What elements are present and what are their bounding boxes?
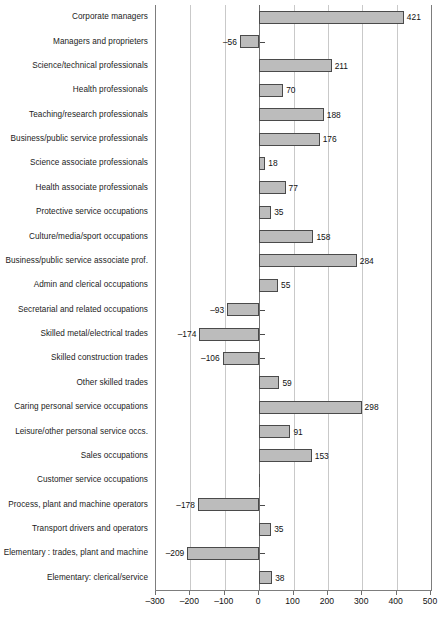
category-label: Science associate professionals (0, 158, 148, 168)
category-label: Secretarial and related occupations (0, 305, 148, 315)
bar-value-label: 38 (275, 573, 284, 583)
bar (259, 401, 361, 414)
bar-value-label: 35 (274, 207, 283, 217)
category-label: Teaching/research professionals (0, 110, 148, 120)
category-label: Managers and proprieters (0, 37, 148, 47)
x-tick-mark (189, 591, 190, 595)
bar-value-label: 18 (268, 158, 277, 168)
x-tick-mark (155, 591, 156, 595)
category-label: Transport drivers and operators (0, 524, 148, 534)
bar (259, 84, 283, 97)
gridline (328, 5, 329, 590)
bar (259, 133, 320, 146)
x-tick-mark (361, 591, 362, 595)
category-label: Process, plant and machine operators (0, 500, 148, 510)
bar (259, 474, 260, 487)
bar (259, 230, 313, 243)
bar (223, 352, 259, 365)
category-label: Skilled metal/electrical trades (0, 329, 148, 339)
bar-value-label: 35 (274, 524, 283, 534)
zero-axis-tick (260, 334, 265, 335)
bar (240, 35, 259, 48)
zero-axis-tick (260, 310, 265, 311)
bar-value-label: –106 (201, 353, 220, 363)
bar (187, 547, 259, 560)
bar (259, 376, 279, 389)
zero-axis-tick (260, 42, 265, 43)
bar-value-label: 176 (323, 134, 337, 144)
category-label: Culture/media/sport occupations (0, 232, 148, 242)
x-tick-mark (293, 591, 294, 595)
x-tick-label: 200 (320, 596, 334, 607)
bar-value-label: –56 (223, 37, 237, 47)
bar-value-label: 421 (407, 12, 421, 22)
x-axis: –300–200–1000100200300400500 (155, 591, 431, 615)
category-label: Business/public service professionals (0, 134, 148, 144)
bar-value-label: 153 (315, 451, 329, 461)
bar-value-label: 158 (316, 232, 330, 242)
x-tick-mark (327, 591, 328, 595)
x-tick-label: 0 (256, 596, 261, 607)
zero-axis-tick (260, 553, 265, 554)
x-tick-mark (396, 591, 397, 595)
category-label: Caring personal service occupations (0, 402, 148, 412)
bar (259, 571, 272, 584)
category-label: Elementary: clerical/service (0, 573, 148, 583)
bar (259, 279, 278, 292)
bar-value-label: –93 (210, 305, 224, 315)
bar-chart: Corporate managersManagers and propriete… (0, 0, 446, 630)
x-tick-mark (258, 591, 259, 595)
bar-value-label: –174 (178, 329, 197, 339)
category-label: Corporate managers (0, 12, 148, 22)
zero-axis-tick (260, 358, 265, 359)
bar (259, 108, 324, 121)
category-label: Business/public service associate prof. (0, 256, 148, 266)
bar (259, 523, 271, 536)
plot-area: 421–562117018817618773515828455–93–174–1… (155, 5, 432, 591)
bar-value-label: 188 (327, 110, 341, 120)
bar-value-label: 70 (286, 85, 295, 95)
category-label: Health professionals (0, 85, 148, 95)
category-label: Elementary : trades, plant and machine (0, 548, 148, 558)
category-label: Protective service occupations (0, 207, 148, 217)
bar (259, 11, 404, 24)
category-label: Skilled construction trades (0, 353, 148, 363)
category-label-column: Corporate managersManagers and propriete… (0, 5, 152, 590)
bar (227, 303, 259, 316)
category-label: Other skilled trades (0, 378, 148, 388)
zero-axis-tick (260, 505, 265, 506)
bar-value-label: 77 (289, 183, 298, 193)
bar (259, 254, 357, 267)
category-label: Customer service occupations (0, 475, 148, 485)
x-tick-label: –100 (214, 596, 233, 607)
category-label: Leisure/other personal service occs. (0, 427, 148, 437)
category-label: Health associate professionals (0, 183, 148, 193)
bar (259, 206, 271, 219)
bar-value-label: 211 (335, 61, 348, 71)
gridline (362, 5, 363, 590)
bar-value-label: 59 (282, 378, 291, 388)
bar (259, 449, 312, 462)
bar (259, 157, 265, 170)
category-label: Admin and clerical occupations (0, 280, 148, 290)
x-tick-label: 500 (423, 596, 437, 607)
x-tick-label: 300 (354, 596, 368, 607)
bar-value-label: 284 (360, 256, 374, 266)
bar-value-label: –178 (176, 500, 195, 510)
x-tick-mark (224, 591, 225, 595)
bar (198, 498, 259, 511)
x-tick-label: –300 (145, 596, 164, 607)
bar (259, 59, 332, 72)
bar-value-label: 91 (293, 427, 302, 437)
x-tick-label: 400 (388, 596, 402, 607)
x-tick-mark (430, 591, 431, 595)
category-label: Sales occupations (0, 451, 148, 461)
x-tick-label: –200 (180, 596, 199, 607)
bar (259, 181, 285, 194)
x-tick-label: 100 (285, 596, 299, 607)
gridline (397, 5, 398, 590)
bar-value-label: –209 (166, 548, 185, 558)
bar-value-label: 55 (281, 280, 290, 290)
bar-value-label: 298 (365, 402, 379, 412)
bar (259, 425, 290, 438)
